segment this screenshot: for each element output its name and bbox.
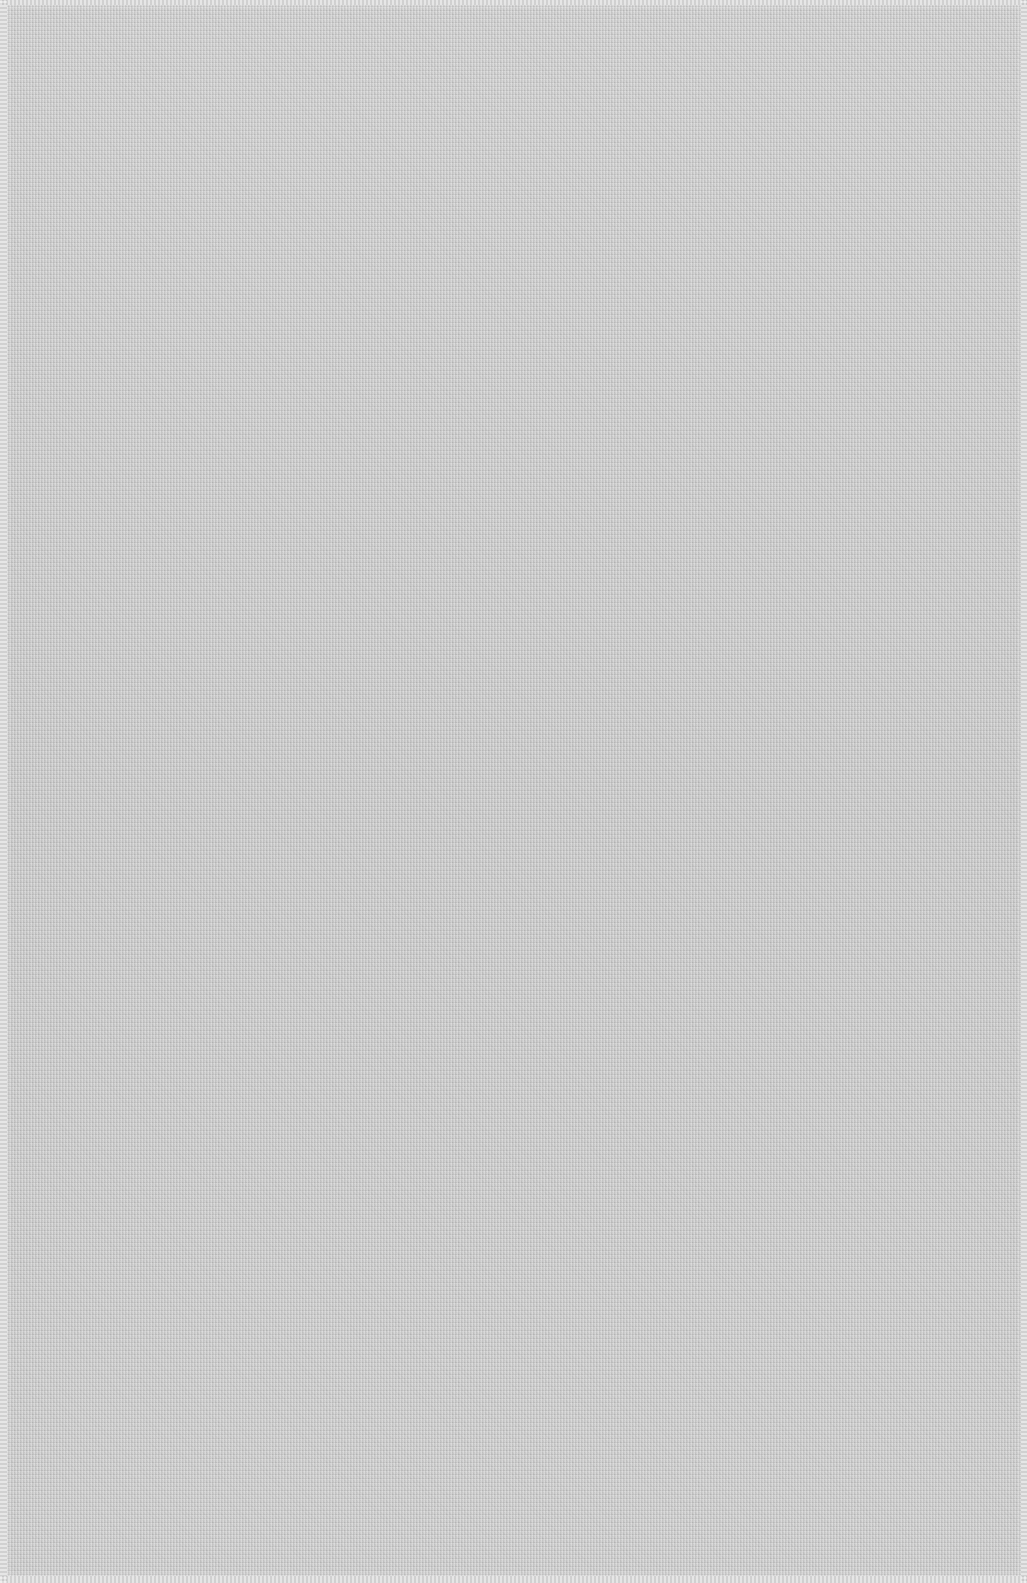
fabric-edge-bottom: [0, 1576, 1027, 1583]
image-frame: [0, 0, 1027, 1583]
fabric-edge-right: [1021, 0, 1027, 1583]
fabric-swatch: [7, 5, 1021, 1576]
fabric-edge-left: [0, 0, 7, 1583]
